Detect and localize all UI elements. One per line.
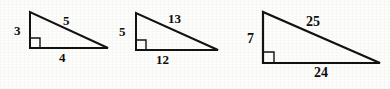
right-angle-marker-3-icon — [263, 52, 274, 63]
label-triangle-3-hypotenuse: 25 — [306, 15, 320, 29]
right-angle-marker-1-icon — [30, 38, 40, 48]
label-triangle-3-horizontal-leg: 24 — [314, 66, 328, 80]
label-triangle-2-hypotenuse: 13 — [168, 12, 181, 25]
label-triangle-1-horizontal-leg: 4 — [59, 51, 66, 64]
label-triangle-1-vertical-leg: 3 — [14, 24, 21, 37]
pythagorean-triangles-figure: 3 5 4 5 13 12 7 25 24 — [0, 0, 390, 89]
triangle-7-24-25-outline — [263, 12, 380, 63]
right-angle-marker-2-icon — [136, 40, 146, 50]
triangle-7-24-25-shape — [263, 12, 380, 63]
label-triangle-2-vertical-leg: 5 — [119, 25, 126, 38]
triangles-svg-canvas — [0, 0, 390, 89]
label-triangle-3-vertical-leg: 7 — [247, 32, 254, 46]
label-triangle-1-hypotenuse: 5 — [63, 14, 70, 27]
label-triangle-2-horizontal-leg: 12 — [156, 53, 169, 66]
